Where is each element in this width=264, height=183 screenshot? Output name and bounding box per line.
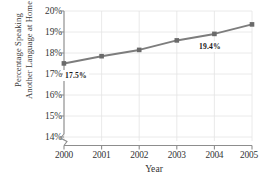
x-tick-label-2005: 2005 [232,150,264,160]
x-axis-ticks [64,146,252,150]
data-point-marker [212,32,217,37]
line-chart: Percentage Speaking Another Language at … [0,0,264,183]
data-point-marker [175,38,180,43]
x-axis-title-text: Year [145,163,163,174]
data-point-marker [137,48,142,53]
x-tick-label-2002: 2002 [122,150,156,160]
data-series-line [64,24,252,63]
data-point-marker [99,54,104,59]
annotation-end-value: 19.4% [197,41,223,52]
data-point-marker [250,22,255,27]
x-tick-label-2004: 2004 [197,150,231,160]
x-tick-label-2001: 2001 [85,150,119,160]
grid-horizontal [64,11,252,137]
annotation-start-value: 17.5% [63,70,89,81]
x-axis-title: Year [0,163,264,174]
data-point-marker [62,61,67,66]
x-tick-label-2003: 2003 [160,150,194,160]
x-tick-label-2000: 2000 [47,150,81,160]
